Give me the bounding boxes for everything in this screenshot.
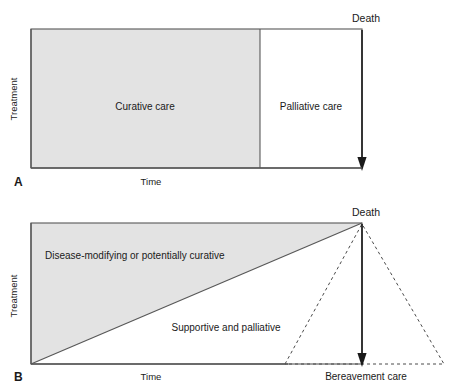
panel-a-death-arrow-head	[357, 157, 366, 171]
panel-a-death-label: Death	[352, 12, 380, 24]
panel-b-death-label: Death	[352, 206, 380, 218]
panel-a-y-axis-label: Treatment	[8, 77, 19, 120]
panel-b-supportive-palliative-label: Supportive and palliative	[172, 322, 281, 333]
panel-a-letter: A	[14, 175, 23, 189]
panel-b-y-axis-label: Treatment	[8, 274, 19, 317]
panel-b-letter: B	[14, 370, 23, 384]
care-models-diagram: Death Curative care Palliative care Trea…	[0, 0, 465, 389]
panel-b-disease-modifying-label: Disease-modifying or potentially curativ…	[45, 250, 225, 261]
panel-a-curative-care-label: Curative care	[115, 101, 175, 112]
panel-a-x-axis-label: Time	[141, 176, 162, 187]
panel-a-palliative-care-label: Palliative care	[280, 101, 343, 112]
figure-root: Death Curative care Palliative care Trea…	[0, 0, 465, 389]
panel-b-death-arrow-head	[357, 353, 366, 367]
panel-a-curative-region	[31, 29, 260, 168]
panel-b-group: Death Disease-modifying or potentially c…	[8, 206, 444, 384]
panel-b-x-axis-label: Time	[141, 371, 162, 382]
panel-b-bereavement-care-label: Bereavement care	[325, 371, 407, 382]
panel-a-group: Death Curative care Palliative care Trea…	[8, 12, 380, 189]
